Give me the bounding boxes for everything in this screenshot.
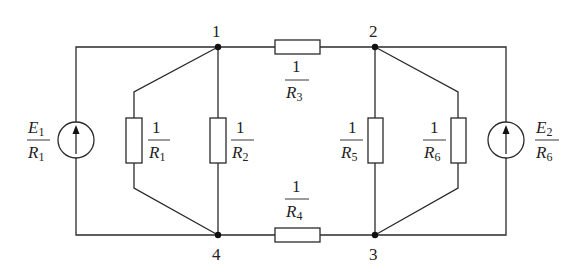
current-source-2 — [488, 122, 524, 158]
svg-text:R6: R6 — [423, 143, 440, 164]
svg-text:R1: R1 — [148, 143, 165, 164]
conductance-g1-label: 1 R1 — [148, 118, 170, 164]
conductance-g2-label: 1 R2 — [231, 118, 254, 164]
conductance-g5-label: 1 R5 — [340, 118, 363, 164]
svg-text:1: 1 — [236, 118, 245, 137]
svg-text:R3: R3 — [285, 83, 302, 104]
svg-text:1: 1 — [152, 118, 161, 137]
source-1-label: E1 R1 — [27, 118, 50, 164]
node-3-dot — [372, 232, 378, 238]
node-3-label: 3 — [369, 245, 378, 264]
svg-text:E1: E1 — [27, 118, 44, 139]
svg-text:R6: R6 — [535, 143, 552, 164]
svg-text:R4: R4 — [285, 202, 302, 223]
node-1-dot — [215, 44, 221, 50]
node-4-dot — [215, 232, 221, 238]
svg-text:R5: R5 — [340, 143, 357, 164]
svg-text:R1: R1 — [27, 143, 44, 164]
conductance-g6-label: 1 R6 — [423, 118, 446, 164]
svg-text:1: 1 — [430, 118, 439, 137]
node-2-dot — [372, 44, 378, 50]
resistor-r2 — [210, 118, 226, 163]
resistor-r4 — [275, 228, 320, 242]
current-source-1 — [58, 122, 94, 158]
conductance-g3-label: 1 R3 — [285, 57, 309, 104]
node-1-label: 1 — [212, 22, 221, 41]
svg-text:E2: E2 — [535, 118, 552, 139]
svg-text:R2: R2 — [231, 143, 248, 164]
resistor-r6 — [451, 118, 466, 163]
svg-text:1: 1 — [348, 118, 357, 137]
circuit-diagram: 1 2 3 4 E1 R1 E2 R6 1 R1 1 R2 1 R3 1 R4 … — [0, 0, 587, 275]
resistor-r1 — [126, 118, 142, 163]
svg-text:1: 1 — [292, 57, 301, 76]
conductance-g4-label: 1 R4 — [285, 177, 309, 223]
source-2-label: E2 R6 — [535, 118, 559, 164]
resistor-r5 — [368, 118, 383, 163]
resistor-r3 — [275, 40, 320, 54]
svg-text:1: 1 — [292, 177, 301, 196]
node-4-label: 4 — [212, 245, 221, 264]
node-2-label: 2 — [369, 22, 378, 41]
